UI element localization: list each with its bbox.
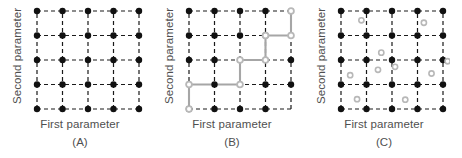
random-sample-point bbox=[429, 71, 434, 76]
grid-node-black bbox=[136, 32, 142, 38]
panel-c-xlabel: First parameter bbox=[318, 118, 450, 130]
grid-node-black bbox=[414, 57, 420, 63]
grid-node-black bbox=[288, 81, 294, 87]
grid-node-black bbox=[85, 8, 91, 14]
grid-node-black bbox=[440, 81, 446, 87]
grid-node-black bbox=[363, 106, 369, 112]
figure-root: Second parameter First parameter (A) Sec… bbox=[0, 0, 462, 158]
grid-node-black bbox=[211, 8, 217, 14]
panel-c-ylabel: Second parameter bbox=[315, 1, 327, 111]
grid-node-black bbox=[363, 32, 369, 38]
grid-node-black bbox=[110, 8, 116, 14]
random-sample-point bbox=[403, 97, 408, 102]
path-node-gray bbox=[263, 33, 269, 39]
random-sample-point bbox=[354, 97, 359, 102]
panel-b-svg bbox=[182, 4, 298, 116]
grid-node-black bbox=[389, 106, 395, 112]
grid-node-black bbox=[363, 8, 369, 14]
path-node-gray bbox=[186, 106, 192, 112]
grid-node-black bbox=[85, 32, 91, 38]
grid-node-black bbox=[110, 32, 116, 38]
grid-node-black bbox=[85, 57, 91, 63]
grid-node-black bbox=[262, 106, 268, 112]
grid-node-black bbox=[363, 81, 369, 87]
grid-node-black bbox=[389, 8, 395, 14]
grid-node-black bbox=[186, 8, 192, 14]
grid-node-black bbox=[136, 8, 142, 14]
grid-node-black bbox=[34, 81, 40, 87]
panel-a-ylabel: Second parameter bbox=[11, 1, 23, 111]
grid-node-black bbox=[85, 106, 91, 112]
panel-a-xlabel: First parameter bbox=[14, 118, 146, 130]
path-node-gray bbox=[288, 8, 294, 14]
grid-node-black bbox=[389, 32, 395, 38]
panel-b-plot bbox=[182, 4, 298, 116]
grid-node-black bbox=[186, 57, 192, 63]
grid-node-black bbox=[440, 106, 446, 112]
grid-node-black bbox=[136, 81, 142, 87]
random-sample-point bbox=[445, 59, 450, 64]
random-sample-point bbox=[379, 50, 384, 55]
random-sample-point bbox=[348, 73, 353, 78]
panel-b: Second parameter First parameter (B) bbox=[152, 0, 306, 158]
path-node-gray bbox=[288, 33, 294, 39]
grid-node-black bbox=[262, 81, 268, 87]
panel-c-letter: (C) bbox=[318, 136, 450, 148]
panel-a-letter: (A) bbox=[14, 136, 146, 148]
grid-node-black bbox=[414, 8, 420, 14]
grid-node-black bbox=[34, 32, 40, 38]
grid-node-black bbox=[237, 32, 243, 38]
panel-b-xlabel: First parameter bbox=[166, 118, 298, 130]
panel-b-letter: (B) bbox=[166, 136, 298, 148]
grid-node-black bbox=[211, 32, 217, 38]
panel-c-plot bbox=[334, 4, 450, 116]
grid-node-black bbox=[136, 106, 142, 112]
panel-a-plot bbox=[30, 4, 146, 116]
grid-node-black bbox=[59, 8, 65, 14]
grid-node-black bbox=[338, 106, 344, 112]
path-node-gray bbox=[237, 82, 243, 88]
grid-node-black bbox=[211, 57, 217, 63]
grid-node-black bbox=[237, 8, 243, 14]
grid-node-black bbox=[414, 32, 420, 38]
grid-node-black bbox=[211, 81, 217, 87]
grid-node-black bbox=[338, 57, 344, 63]
grid-node-black bbox=[34, 106, 40, 112]
random-sample-point bbox=[359, 18, 364, 23]
path-node-gray bbox=[186, 82, 192, 88]
grid-node-black bbox=[59, 57, 65, 63]
grid-node-black bbox=[136, 57, 142, 63]
grid-node-black bbox=[59, 106, 65, 112]
random-sample-point bbox=[421, 20, 426, 25]
grid-node-black bbox=[186, 32, 192, 38]
grid-node-black bbox=[288, 57, 294, 63]
grid-node-black bbox=[338, 32, 344, 38]
grid-node-black bbox=[34, 8, 40, 14]
grid-node-black bbox=[389, 81, 395, 87]
grid-node-black bbox=[440, 32, 446, 38]
grid-node-black bbox=[59, 32, 65, 38]
grid-node-black bbox=[34, 57, 40, 63]
grid-node-black bbox=[237, 106, 243, 112]
random-sample-point bbox=[375, 67, 380, 72]
grid-node-black bbox=[440, 8, 446, 14]
grid-node-black bbox=[338, 8, 344, 14]
panel-c-svg bbox=[334, 4, 450, 116]
grid-node-black bbox=[262, 8, 268, 14]
panel-a: Second parameter First parameter (A) bbox=[0, 0, 154, 158]
panel-b-ylabel: Second parameter bbox=[163, 1, 175, 111]
grid-node-black bbox=[85, 81, 91, 87]
grid-node-black bbox=[59, 81, 65, 87]
grid-node-black bbox=[110, 81, 116, 87]
grid-node-black bbox=[389, 57, 395, 63]
path-node-gray bbox=[263, 57, 269, 63]
random-sample-point bbox=[392, 64, 397, 69]
grid-node-black bbox=[110, 57, 116, 63]
path-node-gray bbox=[237, 57, 243, 63]
grid-node-black bbox=[338, 81, 344, 87]
grid-node-black bbox=[211, 106, 217, 112]
grid-node-black bbox=[414, 81, 420, 87]
grid-node-black bbox=[414, 106, 420, 112]
grid-node-black bbox=[363, 57, 369, 63]
grid-node-black bbox=[110, 106, 116, 112]
